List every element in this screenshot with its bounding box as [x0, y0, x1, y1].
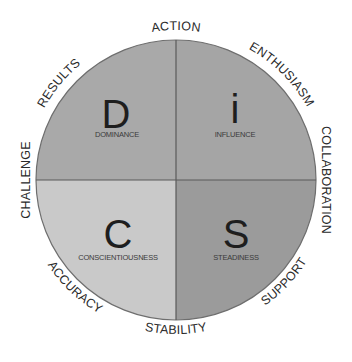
ring-label-action: ACTION: [150, 19, 201, 35]
quadrant-i-label: INFLUENCE: [215, 130, 256, 139]
quadrant-s-label: STEADINESS: [213, 253, 259, 262]
disc-diagram: D DOMINANCE i INFLUENCE C CONSCIENTIOUSN…: [0, 0, 352, 362]
ring-label-challenge: CHALLENGE: [19, 141, 33, 219]
quadrant-i-letter: i: [231, 87, 240, 131]
quadrant-s-letter: S: [223, 212, 250, 256]
quadrant-d-label: DOMINANCE: [95, 130, 139, 139]
ring-label-collaboration: COLLABORATION: [319, 126, 333, 234]
quadrant-c-letter: C: [104, 212, 133, 256]
quadrant-i: [176, 40, 316, 180]
ring-label-stability: STABILITY: [144, 320, 209, 337]
quadrant-c-label: CONSCIENTIOUSNESS: [78, 253, 158, 262]
